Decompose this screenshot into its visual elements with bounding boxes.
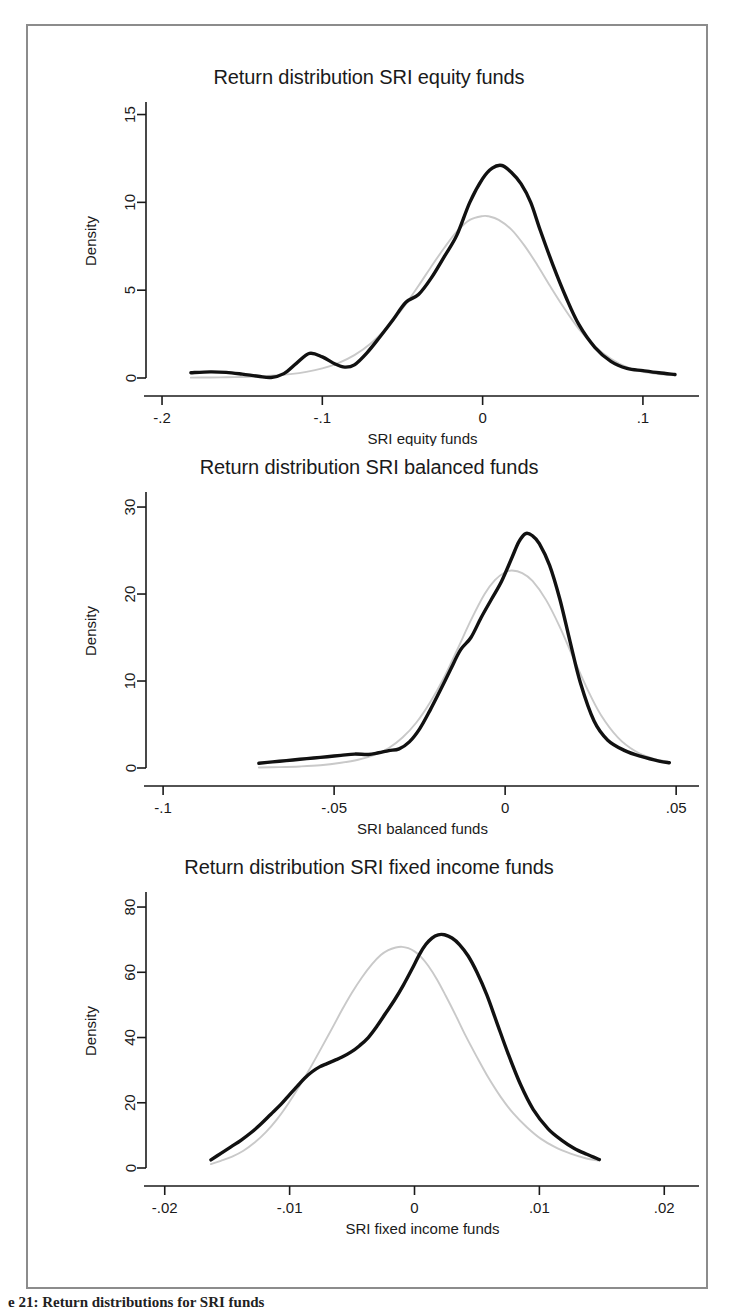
y-tick-label: 40 — [122, 1029, 139, 1046]
y-tick-label: 15 — [122, 106, 139, 123]
figure-caption: e 21: Return distributions for SRI funds — [8, 1294, 708, 1311]
x-tick-label: .01 — [529, 1199, 550, 1216]
kernel-density-curve — [211, 934, 599, 1159]
y-axis-title: Density — [82, 605, 99, 656]
chart-panel-equity: Return distribution SRI equity funds 051… — [28, 66, 710, 456]
x-tick-label: .05 — [666, 799, 687, 816]
plot-area-balanced: 0102030-.1-.050.05SRI balanced fundsDens… — [28, 486, 710, 836]
x-tick-label: -.1 — [314, 409, 332, 426]
chart-title-equity: Return distribution SRI equity funds — [28, 66, 710, 89]
y-tick-label: 0 — [122, 374, 139, 382]
y-tick-label: 80 — [122, 899, 139, 916]
x-tick-label: 0 — [410, 1199, 418, 1216]
x-tick-label: 0 — [501, 799, 509, 816]
y-tick-label: 20 — [122, 1094, 139, 1111]
y-tick-label: 60 — [122, 964, 139, 981]
x-axis-title: SRI balanced funds — [357, 820, 488, 836]
y-axis-title: Density — [82, 1005, 99, 1056]
chart-panel-balanced: Return distribution SRI balanced funds 0… — [28, 456, 710, 846]
x-tick-label: -.02 — [152, 1199, 178, 1216]
y-tick-label: 5 — [122, 286, 139, 294]
x-tick-label: 0 — [478, 409, 486, 426]
y-axis-title: Density — [82, 215, 99, 266]
x-tick-label: -.2 — [153, 409, 171, 426]
y-tick-label: 10 — [122, 673, 139, 690]
y-tick-label: 10 — [122, 194, 139, 211]
y-tick-label: 0 — [122, 1164, 139, 1172]
y-tick-label: 0 — [122, 764, 139, 772]
x-tick-label: -.01 — [277, 1199, 303, 1216]
plot-svg-balanced: 0102030-.1-.050.05SRI balanced fundsDens… — [28, 486, 710, 836]
plot-svg-fixed-income: 020406080-.02-.010.01.02SRI fixed income… — [28, 886, 710, 1236]
kernel-density-curve — [259, 533, 669, 763]
x-axis-title: SRI fixed income funds — [345, 1220, 499, 1236]
plot-svg-equity: 051015-.2-.10.1SRI equity fundsDensity — [28, 96, 710, 446]
plot-area-fixed-income: 020406080-.02-.010.01.02SRI fixed income… — [28, 886, 710, 1236]
figure-frame: Return distribution SRI equity funds 051… — [26, 24, 708, 1289]
x-tick-label: -.1 — [154, 799, 172, 816]
x-tick-label: .1 — [637, 409, 650, 426]
chart-title-balanced: Return distribution SRI balanced funds — [28, 456, 710, 479]
chart-title-fixed-income: Return distribution SRI fixed income fun… — [28, 856, 710, 879]
x-tick-label: .02 — [654, 1199, 675, 1216]
y-tick-label: 30 — [122, 499, 139, 516]
x-axis-title: SRI equity funds — [367, 430, 477, 446]
plot-area-equity: 051015-.2-.10.1SRI equity fundsDensity — [28, 96, 710, 446]
kernel-density-curve — [191, 165, 675, 377]
x-tick-label: -.05 — [321, 799, 347, 816]
y-tick-label: 20 — [122, 586, 139, 603]
chart-panel-fixed-income: Return distribution SRI fixed income fun… — [28, 856, 710, 1256]
